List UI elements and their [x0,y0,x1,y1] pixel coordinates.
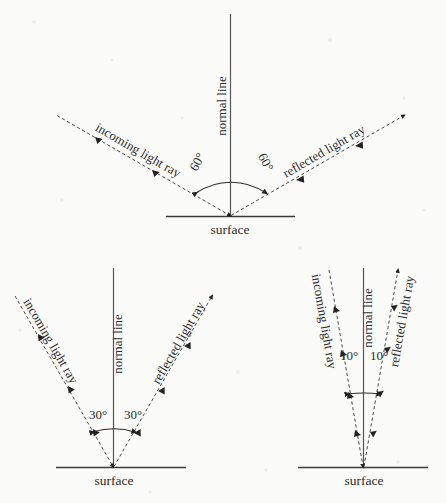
angle-incidence-label-30: 30° [89,407,107,422]
incoming-ray-arrowhead-60b [152,170,160,177]
reflected-ray-label-60: reflected light ray [280,121,368,180]
angle-reflection-label-30: 30° [124,407,142,422]
reflected-ray-label-10: reflected light ray [386,274,417,368]
reflected-ray-arrowhead-60 [296,176,304,183]
reflected-ray-arrowhead-30b [158,387,165,394]
incoming-ray-label-10: incoming light ray [309,273,341,371]
diagram-60: surface normal line incoming light ray r… [57,14,404,237]
incoming-ray-arrowhead-60 [95,137,103,144]
diagram-30: surface normal line incoming light ray r… [15,268,212,488]
surface-label-30: surface [95,473,134,488]
angle-incidence-label-60: 60° [186,150,208,173]
angle-reflection-label-60: 60° [255,150,277,173]
normal-line-label-10: normal line [360,288,375,348]
angle-reflection-label-10: 10° [370,348,388,363]
normal-line-label-30: normal line [110,314,125,374]
reflected-ray-arrowhead-10 [370,431,377,438]
incoming-ray-arrowhead-30b [68,386,75,394]
reflected-ray-60 [231,116,404,216]
diagram-10: surface normal line incoming light ray r… [298,268,428,488]
incoming-ray-label-30: incoming light ray [20,295,81,386]
surface-label-10: surface [345,473,384,488]
incoming-ray-arrowhead-10 [333,306,340,313]
reflected-ray-label-30: reflected light ray [149,299,208,387]
incoming-ray-60 [57,116,230,216]
angle-incidence-label-10: 10° [340,348,358,363]
incoming-ray-label-60: incoming light ray [93,120,184,181]
incoming-ray-30 [15,296,113,467]
surface-label-60: surface [211,222,250,237]
incoming-ray-arrowhead-10d [354,430,361,437]
reflection-diagram-figure: surface normal line incoming light ray r… [0,0,446,503]
normal-line-label-60: normal line [214,76,229,136]
reflected-ray-arrowhead-60b [355,142,363,149]
